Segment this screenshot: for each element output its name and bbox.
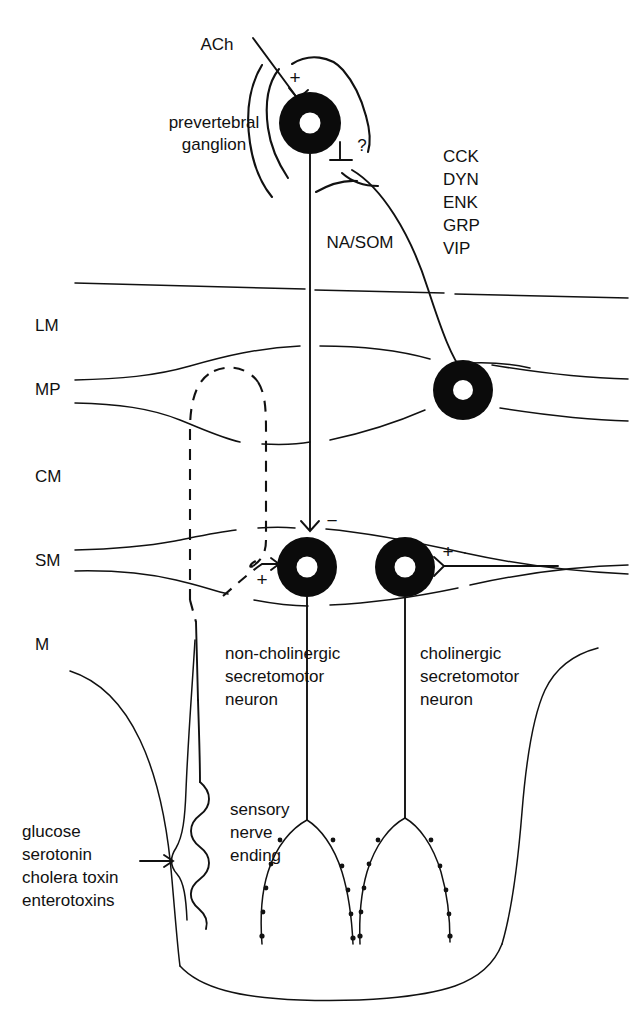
non-cholinergic-neuron-label-line2: secretomotor [225, 667, 325, 686]
sm-m-boundary [75, 565, 628, 606]
unknown-input-terminal [330, 142, 352, 160]
stimulus-label-cholera-toxin: cholera toxin [22, 868, 118, 887]
sensory-nerve-ending-label-line3: ending [230, 846, 281, 865]
diagram-root: ACh + prevertebral ganglion ? NA/SOM CCK… [0, 0, 632, 1023]
mucosa-crypt-outline [70, 640, 598, 1000]
unknown-input-question-mark: ? [357, 136, 366, 155]
lm-mp-boundary [75, 346, 628, 380]
stimulus-arrow [140, 855, 173, 867]
sensory-nerve-ending-label-line2: nerve [230, 823, 273, 842]
cholinergic-excitatory-sign: + [442, 541, 453, 562]
peptide-grp-label: GRP [443, 216, 480, 235]
cm-sm-boundary [75, 527, 628, 574]
cholinergic-neuron-label-line2: secretomotor [420, 667, 520, 686]
na-som-label: NA/SOM [326, 233, 393, 252]
prevertebral-ganglion-label-line1: prevertebral [169, 113, 260, 132]
stimulus-label-serotonin: serotonin [22, 845, 92, 864]
peptide-enk-label: ENK [443, 193, 479, 212]
stimulus-label-glucose: glucose [22, 822, 81, 841]
mp-cm-boundary [75, 403, 628, 444]
layer-label-lm: LM [35, 316, 59, 335]
peptide-dyn-label: DYN [443, 170, 479, 189]
non-cholinergic-neuron-label-line1: non-cholinergic [225, 644, 341, 663]
na-som-axon [301, 153, 319, 531]
stimulus-label-enterotoxins: enterotoxins [22, 891, 115, 910]
layer-label-mp: MP [35, 380, 61, 399]
layer-label-sm: SM [35, 551, 61, 570]
ach-label: ACh [200, 35, 233, 54]
enteric-circuitry-figure: ACh + prevertebral ganglion ? NA/SOM CCK… [0, 0, 632, 1023]
sensory-nerve-ending-label-line1: sensory [230, 800, 290, 819]
peptide-cck-label: CCK [443, 147, 480, 166]
ach-synapse-sign: + [289, 67, 300, 88]
cholinergic-neuron-label-line3: neuron [420, 690, 473, 709]
peptide-vip-label: VIP [443, 239, 470, 258]
prevertebral-ganglion-soma [279, 92, 341, 154]
cholinergic-neuron-label-line1: cholinergic [420, 644, 502, 663]
layer-label-m: M [35, 635, 49, 654]
secretomotor-terminal-arbors [259, 818, 452, 944]
non-cholinergic-inhibitory-sign: − [326, 510, 337, 531]
serosa-boundary [75, 283, 628, 298]
layer-label-cm: CM [35, 467, 61, 486]
non-cholinergic-neuron-label-line3: neuron [225, 690, 278, 709]
prevertebral-ganglion-label-line2: ganglion [182, 135, 246, 154]
non-cholinergic-excitatory-sign: + [256, 569, 267, 590]
